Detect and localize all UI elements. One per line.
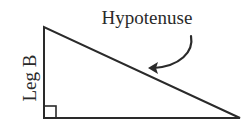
- leg-b-label: Leg B: [19, 55, 40, 102]
- hypotenuse-label: Hypotenuse: [102, 7, 193, 28]
- curved-arrow-icon: [154, 36, 191, 68]
- right-triangle: [44, 27, 240, 118]
- diagram-svg: Hypotenuse Leg B: [0, 0, 245, 129]
- right-triangle-diagram: Hypotenuse Leg B: [0, 0, 245, 129]
- right-angle-marker: [44, 106, 56, 118]
